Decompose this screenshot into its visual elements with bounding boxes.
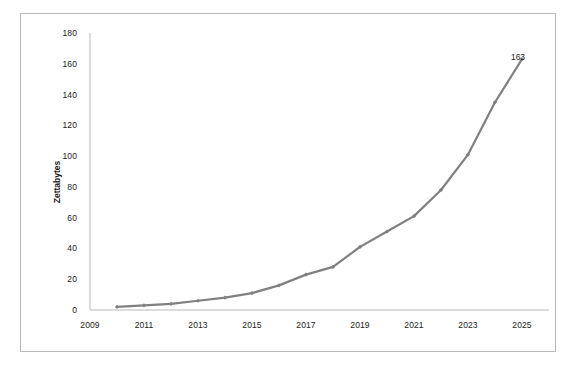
chart-frame: 180 160 140 120 100 80 60 40 20 0 2009 2… xyxy=(20,13,556,352)
data-point-marker xyxy=(196,299,200,303)
x-tick-label: 2015 xyxy=(242,320,261,330)
y-tick-label: 0 xyxy=(47,305,77,315)
y-tick-label: 120 xyxy=(47,120,77,130)
axis-lines xyxy=(90,33,549,310)
y-tick-label: 140 xyxy=(47,90,77,100)
y-tick-label: 180 xyxy=(47,28,77,38)
line-chart-plot xyxy=(21,14,555,351)
x-tick-label: 2019 xyxy=(350,320,369,330)
y-tick-label: 40 xyxy=(47,243,77,253)
x-tick-label: 2017 xyxy=(296,320,315,330)
x-tick-label: 2025 xyxy=(512,320,531,330)
x-tick-label: 2021 xyxy=(404,320,423,330)
y-tick-label: 60 xyxy=(47,213,77,223)
y-tick-label: 20 xyxy=(47,274,77,284)
data-point-label: 163 xyxy=(511,52,525,62)
y-tick-label: 160 xyxy=(47,59,77,69)
y-axis-title: Zettabytes xyxy=(52,161,62,204)
x-tick-label: 2023 xyxy=(458,320,477,330)
data-point-marker xyxy=(223,296,227,300)
series-line-group xyxy=(115,57,524,309)
chart-screenshot: 180 160 140 120 100 80 60 40 20 0 2009 2… xyxy=(0,0,573,366)
x-tick-label: 2009 xyxy=(80,320,99,330)
data-point-marker xyxy=(169,302,173,306)
data-point-marker xyxy=(142,303,146,307)
x-tick-label: 2013 xyxy=(188,320,207,330)
x-tick-label: 2011 xyxy=(135,320,154,330)
data-point-marker xyxy=(115,305,119,309)
